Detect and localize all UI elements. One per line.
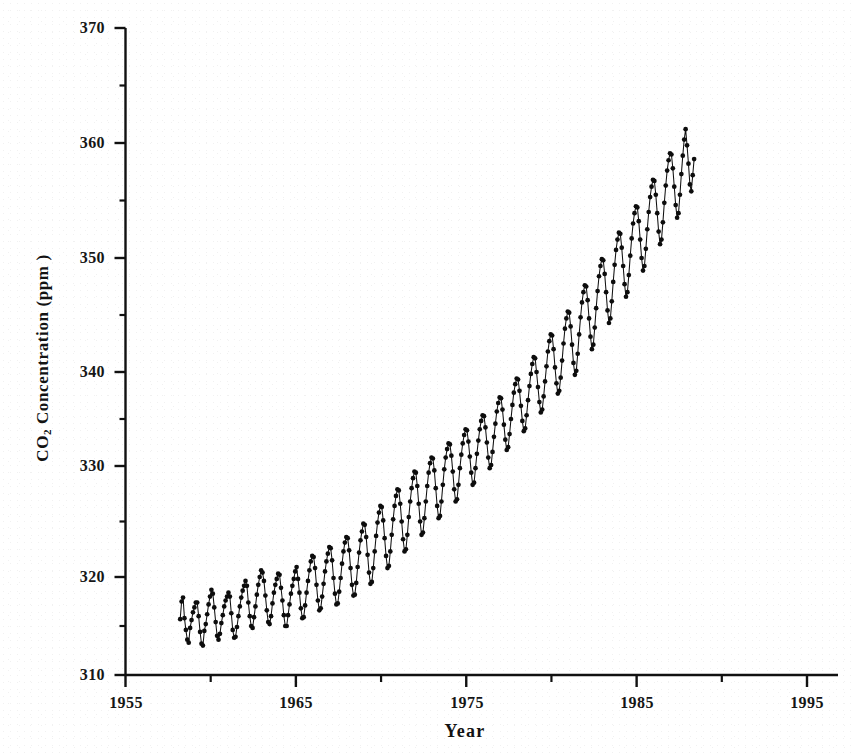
data-point [537, 400, 542, 405]
data-point [371, 566, 376, 571]
data-point [387, 564, 392, 569]
data-point [455, 497, 460, 502]
data-point [290, 583, 295, 588]
data-point [689, 189, 694, 194]
data-point [655, 211, 660, 216]
data-point [206, 602, 211, 607]
series-markers-0 [178, 127, 697, 648]
data-point [406, 515, 411, 520]
data-point [507, 432, 512, 437]
data-point [553, 365, 558, 370]
data-point [178, 617, 183, 622]
data-point [289, 591, 294, 596]
data-point [678, 192, 683, 197]
data-point [646, 210, 651, 215]
data-point [513, 382, 518, 387]
data-point [490, 450, 495, 455]
data-point [337, 589, 342, 594]
data-point [246, 600, 251, 605]
data-point [273, 582, 278, 587]
data-point [396, 488, 401, 493]
data-point [293, 569, 298, 574]
data-point [426, 470, 431, 475]
data-point [546, 349, 551, 354]
data-point [384, 554, 389, 559]
data-point [328, 546, 333, 551]
data-point [260, 570, 265, 575]
data-point [218, 631, 223, 636]
data-point [364, 535, 369, 540]
data-point [347, 548, 352, 553]
data-point [358, 538, 363, 543]
data-point [181, 595, 186, 600]
data-point [253, 604, 258, 609]
y-axis-title-subscript: 2 [41, 429, 53, 435]
data-point [462, 433, 467, 438]
data-point [619, 245, 624, 250]
data-point [252, 615, 257, 620]
data-point [367, 570, 372, 575]
data-point [280, 598, 285, 603]
ytick-label-310: 310 [55, 667, 105, 683]
data-point [475, 451, 480, 456]
data-point [642, 264, 647, 269]
data-point [652, 179, 657, 184]
data-point [201, 643, 206, 648]
data-point [679, 172, 684, 177]
data-point [203, 622, 208, 627]
data-point [653, 192, 658, 197]
data-point [415, 484, 420, 489]
data-point [299, 606, 304, 611]
data-point [399, 519, 404, 524]
data-point [506, 445, 511, 450]
data-point [649, 184, 654, 189]
ytick-label-320: 320 [55, 569, 105, 585]
data-point [624, 294, 629, 299]
data-point [313, 566, 318, 571]
data-point [331, 576, 336, 581]
data-point [665, 168, 670, 173]
data-point [409, 486, 414, 491]
data-point [277, 572, 282, 577]
data-point [340, 561, 345, 566]
data-point [685, 143, 690, 148]
data-point [519, 403, 524, 408]
data-point [465, 428, 470, 433]
data-point [578, 315, 583, 320]
data-point [333, 591, 338, 596]
data-point [511, 390, 516, 395]
data-point [680, 153, 685, 158]
data-point [304, 590, 309, 595]
data-point [341, 549, 346, 554]
data-point [486, 455, 491, 460]
data-point [237, 604, 242, 609]
data-point [306, 579, 311, 584]
data-point [523, 426, 528, 431]
data-point [536, 385, 541, 390]
data-point [577, 332, 582, 337]
data-point [588, 334, 593, 339]
data-point [467, 454, 472, 459]
data-point [543, 379, 548, 384]
data-point [595, 289, 600, 294]
data-point [235, 625, 240, 630]
data-point [661, 220, 666, 225]
data-point [239, 595, 244, 600]
data-point [219, 621, 224, 626]
data-point [274, 577, 279, 582]
data-point [448, 442, 453, 447]
data-point [433, 486, 438, 491]
data-point [318, 606, 323, 611]
data-point [184, 628, 189, 633]
data-point [648, 195, 653, 200]
data-point [567, 310, 572, 315]
data-point [195, 600, 200, 605]
data-point [435, 504, 440, 509]
data-point [450, 469, 455, 474]
ytick-label-350: 350 [55, 250, 105, 266]
data-point [626, 273, 631, 278]
data-point [636, 219, 641, 224]
data-point [294, 565, 299, 570]
ytick-label-340: 340 [55, 364, 105, 380]
data-point [307, 568, 312, 573]
